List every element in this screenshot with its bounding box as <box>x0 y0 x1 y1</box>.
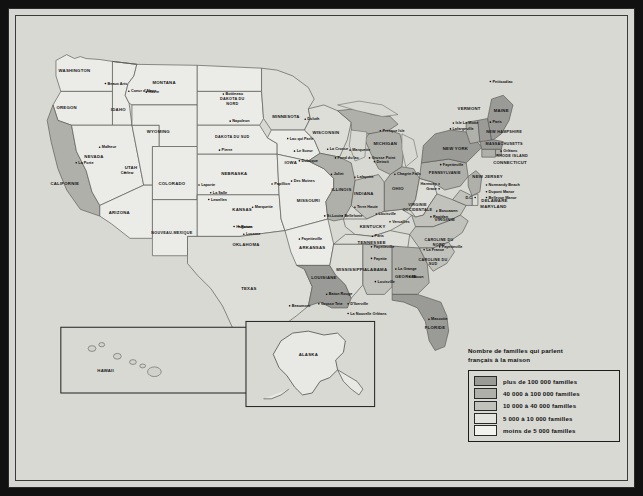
city-marker[interactable]: Orléans <box>500 149 517 153</box>
legend-label-2: 40 000 à 100 000 familles <box>503 390 580 397</box>
city-label: Duluth <box>307 117 320 121</box>
city-label: Chagrin Falls <box>397 173 421 177</box>
city-marker[interactable]: Beaumont <box>289 304 311 308</box>
legend-row[interactable]: 10 000 à 40 000 familles <box>474 400 613 412</box>
city-marker[interactable]: Joliet <box>331 173 345 177</box>
city-marker[interactable]: La Grange <box>395 267 417 271</box>
state-label-co: COLORADO <box>158 181 185 186</box>
city-marker[interactable]: Laporte <box>198 183 215 187</box>
legend-row[interactable]: 5 000 à 10 000 familles <box>474 412 613 424</box>
city-marker[interactable]: Isle La Motte <box>453 121 479 125</box>
city-marker[interactable]: Versailles <box>389 220 409 224</box>
city-marker[interactable]: Mascotte <box>428 318 447 322</box>
city-marker[interactable]: Malheur <box>99 145 117 149</box>
state-label-pa: PENNSYLVANIE <box>429 171 461 175</box>
city-marker[interactable]: La Crosse <box>327 147 348 151</box>
state-shape-fl[interactable] <box>392 294 449 350</box>
city-dot <box>243 233 245 235</box>
city-marker[interactable]: Dupont Manor <box>486 190 515 194</box>
city-marker[interactable]: Des Moines <box>291 179 315 183</box>
city-marker[interactable]: La Porte <box>75 161 93 165</box>
city-dot <box>229 120 231 122</box>
city-dot <box>223 93 225 95</box>
city-marker[interactable]: Lafayette <box>354 175 374 179</box>
city-marker[interactable]: Havre <box>146 90 159 94</box>
city-marker[interactable]: Lewellen <box>208 198 228 202</box>
city-marker[interactable]: Luceme <box>243 232 260 236</box>
city-marker[interactable]: Louisville <box>376 212 396 216</box>
city-dot <box>99 146 101 148</box>
city-marker[interactable]: Bellefonte <box>341 214 362 218</box>
city-marker[interactable]: Fayetteville <box>371 245 395 249</box>
state-label-ks: KANSAS <box>232 207 252 212</box>
state-shape-ks[interactable] <box>197 154 279 199</box>
city-marker[interactable]: Le Sueur <box>294 149 314 153</box>
state-label-va: VIRGINIE <box>434 217 455 222</box>
city-marker[interactable]: Terre Haute <box>354 205 378 209</box>
city-marker[interactable]: Detroit <box>374 160 390 164</box>
state-label-nv: NEVADA <box>84 154 103 159</box>
city-marker[interactable]: Duluth <box>304 117 320 121</box>
city-dot <box>324 215 326 217</box>
city-label: Dubuque <box>302 159 318 163</box>
city-marker[interactable]: St-Louis <box>324 214 342 218</box>
city-marker[interactable]: Napoleon <box>229 119 250 123</box>
city-marker[interactable]: Pierre <box>219 148 233 152</box>
city-marker[interactable]: Petitcodiac <box>490 80 513 84</box>
city-marker[interactable]: Boscawen <box>436 209 458 213</box>
city-label: St-Louis <box>327 214 342 218</box>
legend-row[interactable]: plus de 100 000 familles <box>474 375 613 387</box>
city-dot <box>438 188 440 190</box>
city-dot <box>75 162 77 164</box>
city-marker[interactable]: Dubuque <box>299 159 318 163</box>
city-marker[interactable]: Grosse Tete <box>318 302 343 306</box>
inset-alaska[interactable]: ALASKA <box>246 321 375 406</box>
city-dot <box>271 183 273 185</box>
map-outer-frame: Beaux ArtsCoeur d'AleneMalheurLa PorteCu… <box>8 8 635 488</box>
city-marker[interactable]: Louisville <box>375 280 395 284</box>
city-marker[interactable]: Grace <box>426 187 440 191</box>
city-marker[interactable]: D'Iberville <box>347 302 368 306</box>
state-shape-mi-lower[interactable] <box>365 130 404 174</box>
city-label: Versailles <box>392 220 409 224</box>
state-shape-nd[interactable] <box>197 65 261 91</box>
legend-title: Nombre de familles qui parlentfrançais à… <box>468 347 620 365</box>
city-marker[interactable]: Fond du lac <box>335 156 359 160</box>
city-marker[interactable]: Lafargeville <box>450 127 474 131</box>
state-shape-ne[interactable] <box>197 125 277 154</box>
state-shape-ct[interactable] <box>482 149 496 157</box>
city-marker[interactable]: Normandy Beach <box>486 183 521 187</box>
legend-row[interactable]: 40 000 à 100 000 familles <box>474 387 613 399</box>
city-marker[interactable]: Baton Rouge <box>326 292 353 296</box>
city-marker[interactable]: Chagrin Falls <box>394 173 421 177</box>
state-label-wa: WASHINGTON <box>59 68 91 73</box>
city-label: Petitcodiac <box>493 80 513 84</box>
city-label: Lewellen <box>211 198 228 202</box>
state-label-mn: MINNESOTA <box>272 114 300 119</box>
city-marker[interactable]: Lac qui Parle <box>287 137 314 141</box>
city-label: D.C. <box>465 196 473 200</box>
city-marker[interactable]: La Nouvelle Orléans <box>347 312 386 316</box>
city-marker[interactable]: Curlew <box>121 171 134 175</box>
state-shape-co[interactable] <box>152 147 197 200</box>
city-marker[interactable]: Marquette <box>349 148 370 152</box>
city-marker[interactable]: Bottineau <box>223 92 244 96</box>
state-label-nh: NEW HAMPSHIRE <box>486 130 522 134</box>
city-marker[interactable]: Marquette <box>252 205 273 209</box>
city-marker[interactable]: Fayetteville <box>299 237 323 241</box>
inset-hawaii[interactable]: HAWAII <box>61 327 268 393</box>
city-label: Fayetteville <box>374 245 395 249</box>
city-marker[interactable]: Fayette <box>371 257 387 261</box>
city-marker[interactable]: Beaux Arts <box>105 82 128 86</box>
city-dot <box>349 149 351 151</box>
legend-row[interactable]: moins de 5 000 familles <box>474 425 613 437</box>
city-marker[interactable]: Fayetteville <box>440 163 464 167</box>
state-label-sd: DAKOTA DU SUD <box>215 135 249 139</box>
state-label-vt: VERMONT <box>458 106 481 111</box>
city-marker[interactable]: Presque Isle <box>379 129 404 133</box>
city-marker[interactable]: La Salle <box>210 191 227 195</box>
state-shape-mn[interactable] <box>262 68 315 130</box>
city-marker[interactable]: Papillion <box>271 182 290 186</box>
city-dot <box>291 180 293 182</box>
city-marker[interactable]: Rosen <box>238 225 253 229</box>
